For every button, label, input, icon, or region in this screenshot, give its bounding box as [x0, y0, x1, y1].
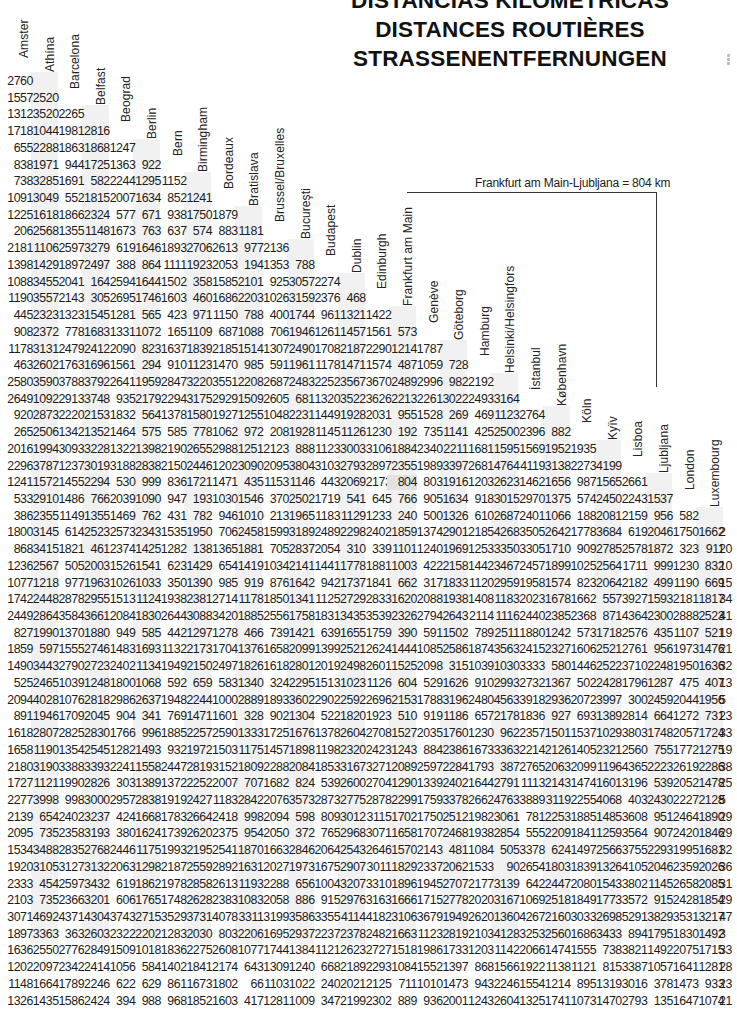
distance-cell: 882 [541, 425, 571, 440]
distance-cell: 2520 [29, 91, 59, 106]
distance-cell: 2661 [617, 475, 647, 490]
distance-cell-partial: 23 [719, 977, 737, 992]
distance-cell: 1241 [182, 191, 212, 206]
distance-cell: 1247 [105, 141, 135, 156]
distance-cell: 788 [285, 258, 315, 273]
example-leader-line-horizontal [407, 192, 657, 193]
distance-cell: 2760 [3, 74, 33, 89]
city-header: Genève [428, 280, 441, 323]
distance-cell-partial: 28 [719, 960, 737, 975]
distance-cell: 2816 [80, 124, 110, 139]
city-header: Köln [581, 399, 594, 423]
distance-cell: 1537 [643, 492, 673, 507]
city-header: Hamburg [479, 306, 492, 356]
distance-cell: 2136 [259, 241, 289, 256]
distance-cell: 2192 [464, 375, 494, 390]
page-edge-marks [726, 0, 732, 944]
edge-mark [727, 58, 730, 61]
city-header: Luxembourg [709, 439, 722, 507]
city-header: Berlin [146, 108, 159, 139]
edge-mark [727, 62, 730, 65]
city-header: Bern [172, 130, 185, 156]
distance-cell: 1787 [413, 342, 443, 357]
city-header: Beograd [120, 76, 133, 122]
city-header: Bucureşti [300, 188, 313, 239]
city-header: Birmingham [197, 107, 210, 172]
city-header: Barcelona [69, 34, 82, 89]
distance-cell: 1879 [208, 208, 238, 223]
city-header: Edinburgh [376, 234, 389, 290]
city-header: İstanbul [530, 347, 543, 390]
city-header: Kyïv [607, 416, 620, 440]
distance-cell: 468 [336, 291, 366, 306]
distance-cell: 922 [131, 158, 161, 173]
city-header: Göteborg [453, 289, 466, 340]
city-header: Dublin [351, 238, 364, 273]
example-annotation: Frankfurt am Main-Ljubljana = 804 km [475, 176, 670, 190]
city-header: Bratislava [248, 152, 261, 206]
distance-cell: 728 [438, 358, 468, 373]
city-header: Ljubljana [658, 424, 671, 473]
distance-cell: 2274 [310, 275, 340, 290]
distance-cell-partial: 21 [719, 994, 737, 1009]
city-header: København [556, 344, 569, 406]
example-leader-line-vertical [656, 192, 657, 387]
city-header: Brussel/Bruxelles [274, 128, 287, 222]
distance-cell: 1935 [566, 442, 596, 457]
distance-cell: 1422 [361, 308, 391, 323]
distance-cell: 4199 [592, 459, 622, 474]
city-header: London [684, 449, 697, 490]
city-header: Helsinki/Helsingfors [504, 266, 517, 373]
distance-cell: 573 [387, 325, 417, 340]
distance-cell-partial: 33 [719, 943, 737, 958]
distance-cell: 1152 [157, 174, 187, 189]
distance-cell: 3164 [489, 392, 519, 407]
city-header: Athína [44, 37, 57, 72]
city-header: Lisboa [632, 421, 645, 457]
city-header: Belfast [95, 68, 108, 105]
distance-cell: 582 [669, 509, 699, 524]
city-header: Amster [18, 19, 31, 58]
city-header: Bordeaux [223, 137, 236, 189]
distance-cell: 1181 [233, 224, 263, 239]
city-header: Frankfurt am Main [402, 207, 415, 306]
edge-mark [727, 54, 730, 57]
distance-cell: 2764 [515, 408, 545, 423]
distance-cell: 2265 [54, 107, 84, 122]
city-header: Budapest [325, 204, 338, 256]
